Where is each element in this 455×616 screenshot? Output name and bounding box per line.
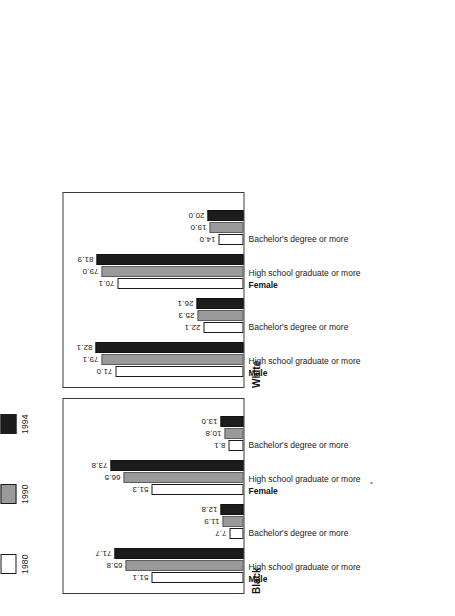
panel-white: 71.079.182.122.125.326.170.179.081.914.0… [62,192,244,388]
bar-value-label: 12.8 [201,505,217,514]
bar-value-label: 26.1 [177,299,193,308]
bar-black-g1-y1980 [229,528,243,539]
bar-white-g2-y1990 [101,266,243,277]
bar-white-g1-y1980 [203,322,243,333]
bar-value-label: 82.1 [76,343,92,352]
bar-black-g3-y1980 [228,440,243,451]
bar-value-label: 79.1 [82,355,98,364]
bar-value-label: 79.0 [82,267,98,276]
bar-black-g2-y1990 [123,472,243,483]
bar-white-g3-y1994 [207,210,243,221]
chart-legend: 1980 1990 1994 [0,0,45,616]
education-label: High school graduate or more [248,268,360,278]
panel-black: 51.165.871.77.711.912.851.366.573.88.110… [62,398,244,594]
bar-value-label: 25.3 [178,311,194,320]
bar-value-label: 71.0 [96,367,112,376]
legend-label-1980: 1980 [19,554,29,574]
bar-white-g2-y1980 [117,278,243,289]
bar-value-label: 51.3 [132,485,148,494]
sex-label-male: Male [248,574,267,584]
bar-value-label: 73.8 [91,461,107,470]
bar-value-label: 11.9 [203,517,218,526]
bar-white-g1-y1990 [197,310,243,321]
panel-white-plot-area: 71.079.182.122.125.326.170.179.081.914.0… [63,193,243,387]
bar-black-g0-y1980 [151,572,243,583]
bar-white-g2-y1994 [96,254,243,265]
bar-black-g3-y1994 [220,416,243,427]
bar-black-g2-y1994 [110,460,243,471]
legend-label-1990: 1990 [19,484,29,504]
bar-value-label: 81.9 [77,255,93,264]
bar-value-label: 14.0 [199,235,215,244]
bar-black-g1-y1990 [222,516,243,527]
bar-value-label: 10.8 [205,429,221,438]
sex-label-female: Female [248,280,277,290]
legend-swatch-1994-icon [0,414,16,434]
bar-value-label: 66.5 [104,473,120,482]
bar-value-label: 8.1 [214,441,225,450]
sex-label-female: Female [248,486,277,496]
bar-value-label: 19.0 [190,223,206,232]
bar-value-label: 20.0 [188,211,204,220]
bar-white-g0-y1990 [101,354,243,365]
bar-value-label: 13.0 [201,417,217,426]
bar-white-g0-y1980 [115,366,243,377]
bar-value-label: 51.1 [132,573,148,582]
bar-black-g0-y1990 [125,560,243,571]
bar-value-label: 70.1 [98,279,114,288]
bar-value-label: 22.1 [184,323,200,332]
education-label: Bachelor's degree or more [248,234,348,244]
bar-white-g0-y1994 [95,342,243,353]
chart-figure: 1980 1990 1994 51.165.871.77.711.912.851… [0,0,455,616]
bar-white-g3-y1980 [218,234,243,245]
education-label: Bachelor's degree or more [248,440,348,450]
bar-value-label: 71.7 [95,549,111,558]
bar-black-g1-y1994 [220,504,243,515]
bar-black-g2-y1980 [151,484,243,495]
stray-mark [370,482,372,484]
education-label: High school graduate or more [248,562,360,572]
bar-value-label: 7.7 [215,529,226,538]
panel-white-category-labels: MaleHigh school graduate or moreBachelor… [248,192,448,388]
education-label: Bachelor's degree or more [248,322,348,332]
sex-label-male: Male [248,368,267,378]
bar-black-g0-y1994 [114,548,243,559]
panel-black-category-labels: MaleHigh school graduate or moreBachelor… [248,398,448,594]
education-label: High school graduate or more [248,474,360,484]
bar-white-g3-y1990 [209,222,243,233]
education-label: Bachelor's degree or more [248,528,348,538]
legend-swatch-1990-icon [0,484,16,504]
education-label: High school graduate or more [248,356,360,366]
legend-label-1994: 1994 [19,414,29,434]
bar-white-g1-y1994 [196,298,243,309]
bar-value-label: 65.8 [106,561,122,570]
bar-black-g3-y1990 [224,428,243,439]
legend-swatch-1980-icon [0,554,16,574]
panel-black-plot-area: 51.165.871.77.711.912.851.366.573.88.110… [63,399,243,593]
